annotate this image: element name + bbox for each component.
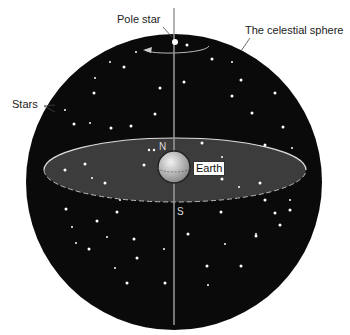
pole-star (172, 39, 178, 45)
celestial-sphere-diagram (0, 0, 350, 335)
north-label: N (159, 141, 166, 152)
earth-label: Earth (193, 161, 225, 176)
stars-label: Stars (12, 98, 38, 110)
celestial-sphere-label: The celestial sphere (245, 24, 343, 36)
pole-star-label: Pole star (117, 13, 160, 25)
earth (158, 151, 190, 183)
south-label: S (177, 206, 184, 217)
celestial-sphere-leader (241, 38, 250, 51)
